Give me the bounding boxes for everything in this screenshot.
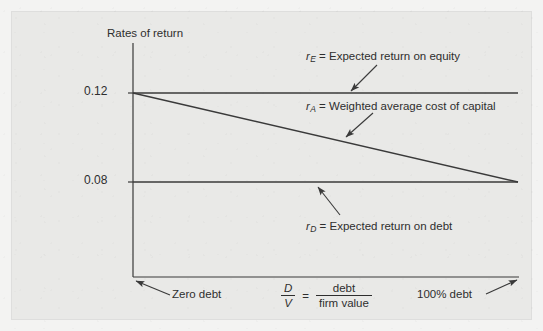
fraction-denominator-v: V bbox=[281, 296, 295, 309]
annotation-arrow-rd bbox=[318, 187, 340, 215]
annotation-arrow-ra bbox=[346, 113, 373, 137]
annotation-text-re: Expected return on equity bbox=[329, 50, 460, 62]
y-axis-title: Rates of return bbox=[107, 27, 183, 40]
y-tick-label-lower: 0.08 bbox=[84, 174, 107, 188]
fraction-numerator-debt: debt bbox=[330, 282, 358, 295]
fraction-debt-over-firm-value: debt firm value bbox=[316, 282, 372, 309]
equals-sign: = bbox=[295, 290, 316, 302]
symbol-re: rE bbox=[306, 50, 316, 62]
annotation-arrow-zero-debt bbox=[136, 281, 170, 295]
fraction-denominator-firm-value: firm value bbox=[316, 296, 372, 309]
annotation-arrow-re bbox=[351, 65, 377, 91]
annotation-label-re: rE = Expected return on equity bbox=[306, 50, 460, 65]
chart-plot-area bbox=[0, 0, 543, 331]
fraction-numerator-d: D bbox=[281, 282, 295, 295]
annotation-arrow-full-debt bbox=[486, 280, 517, 294]
annotation-text-rd: Expected return on debt bbox=[329, 220, 452, 232]
annotation-text-ra: Weighted average cost of capital bbox=[329, 100, 496, 112]
equals-ra: = bbox=[316, 100, 329, 112]
symbol-rd: rD bbox=[306, 220, 316, 232]
y-tick-label-upper: 0.12 bbox=[84, 85, 107, 99]
equals-rd: = bbox=[316, 220, 329, 232]
fraction-debt-over-value: D V bbox=[281, 282, 295, 309]
symbol-ra: rA bbox=[306, 100, 316, 112]
x-axis-label-zero-debt: Zero debt bbox=[172, 288, 221, 301]
x-axis-label-full-debt: 100% debt bbox=[417, 288, 472, 301]
figure-container: Rates of return 0.12 0.08 rE = Expected … bbox=[0, 0, 543, 331]
annotation-label-rd: rD = Expected return on debt bbox=[306, 220, 452, 235]
equals-re: = bbox=[316, 50, 329, 62]
x-axis-formula: D V = debt firm value bbox=[281, 282, 372, 309]
annotation-label-ra: rA = Weighted average cost of capital bbox=[306, 100, 496, 115]
